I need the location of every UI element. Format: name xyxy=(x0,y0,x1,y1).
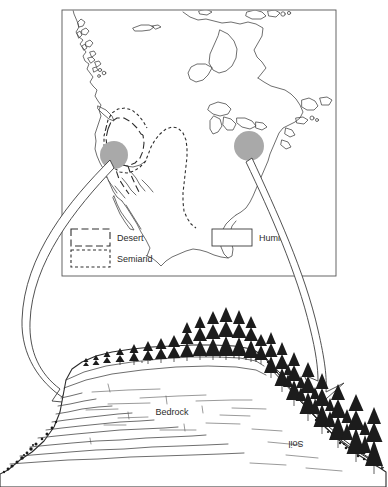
climate-soil-diagram: Desert Semiarid Humid xyxy=(0,0,388,487)
legend-label-semiarid: Semiarid xyxy=(117,254,153,264)
legend-swatch-humid xyxy=(212,229,252,246)
legend-swatch-desert xyxy=(71,229,110,246)
legend-swatch-semiarid xyxy=(71,250,110,267)
arid-site-marker xyxy=(100,141,128,169)
bedrock-label: Bedrock xyxy=(155,407,189,417)
soil-label: Soil xyxy=(288,439,303,449)
figure-root: Desert Semiarid Humid xyxy=(0,0,388,487)
humid-site-marker xyxy=(234,131,264,161)
legend-label-desert: Desert xyxy=(117,233,144,243)
